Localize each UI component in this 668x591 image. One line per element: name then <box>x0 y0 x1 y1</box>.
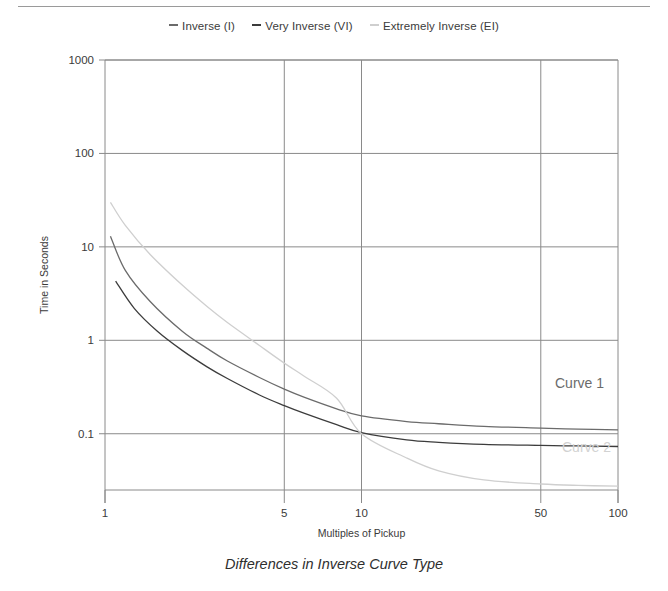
chart-page: Inverse (I) Very Inverse (VI) Extremely … <box>0 0 668 591</box>
x-tick-label-1: 1 <box>102 507 108 519</box>
figure-caption: Differences in Inverse Curve Type <box>0 556 668 572</box>
plot-area-wrapper: 0.11101001000 151050100 Curve 1Curve 2 M… <box>0 0 668 591</box>
axis-titles: Multiples of PickupTime in Seconds <box>38 236 405 539</box>
grid-lines <box>105 60 618 490</box>
annotation-curve-2: Curve 2 <box>562 439 611 455</box>
y-tick-label-0.1: 0.1 <box>78 428 94 440</box>
x-tick-label-10: 10 <box>355 507 368 519</box>
x-axis-title: Multiples of Pickup <box>318 527 406 539</box>
data-curves <box>110 202 618 486</box>
curve-extremely-inverse-ei <box>110 202 618 486</box>
y-tick-label-1000: 1000 <box>68 54 94 66</box>
x-tick-label-50: 50 <box>534 507 547 519</box>
curve-annotations: Curve 1Curve 2 <box>555 375 611 455</box>
x-tick-label-5: 5 <box>281 507 287 519</box>
curve-very-inverse-vi <box>116 281 618 446</box>
x-tick-labels: 151050100 <box>102 507 628 519</box>
y-axis-title: Time in Seconds <box>38 236 50 314</box>
tick-marks <box>99 60 618 503</box>
x-tick-label-100: 100 <box>608 507 627 519</box>
y-tick-labels: 0.11101001000 <box>68 54 94 440</box>
y-tick-label-100: 100 <box>75 147 94 159</box>
curve-inverse-i <box>110 236 618 430</box>
inverse-curve-chart: 0.11101001000 151050100 Curve 1Curve 2 M… <box>0 0 668 591</box>
annotation-curve-1: Curve 1 <box>555 375 604 391</box>
y-tick-label-10: 10 <box>81 241 94 253</box>
y-tick-label-1: 1 <box>88 334 94 346</box>
